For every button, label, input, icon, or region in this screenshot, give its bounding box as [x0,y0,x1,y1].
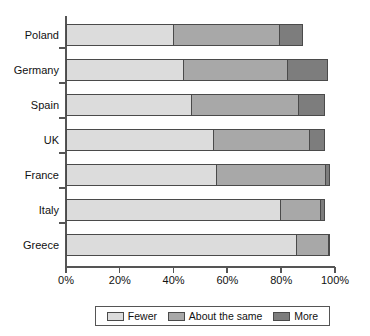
x-axis-tick-label-80: 80% [256,274,306,286]
legend-label-fewer: Fewer [128,310,157,322]
y-axis-label-france: France [0,164,59,186]
y-axis-minor-tick [59,47,66,49]
bar-segment-more-poland [279,24,303,46]
y-axis-label-greece: Greece [0,234,59,256]
bar-segment-about-the-same-germany [183,59,288,81]
y-axis-minor-tick [59,187,66,189]
bar-segment-about-the-same-poland [173,24,281,46]
bar-segment-more-spain [298,94,325,116]
plot-area [66,16,335,266]
x-axis-tick [334,267,336,273]
bar-stack [66,94,335,116]
bar-stack [66,24,335,46]
x-axis-tick-label-60: 60% [202,274,252,286]
x-axis-tick-label-20: 20% [95,274,145,286]
legend-entry-more: More [273,310,318,322]
bar-segment-fewer-france [66,164,217,186]
bar-stack [66,234,335,256]
legend-entry-fewer: Fewer [107,310,157,322]
bar-row-italy [66,199,335,221]
bar-row-germany [66,59,335,81]
y-axis-minor-tick [59,152,66,154]
x-axis-line [65,266,335,268]
bar-segment-fewer-poland [66,24,174,46]
bar-segment-fewer-italy [66,199,281,221]
bar-segment-more-germany [287,59,327,81]
bar-row-poland [66,24,335,46]
bar-segment-fewer-germany [66,59,184,81]
y-axis-label-germany: Germany [0,59,59,81]
chart-legend: Fewer About the same More [95,306,330,326]
legend-swatch-more-icon [273,312,290,321]
bar-segment-about-the-same-uk [213,129,310,151]
x-axis-tick-label-0: 0% [41,274,91,286]
x-axis-tick [280,267,282,273]
bar-row-greece [66,234,335,256]
legend-label-more: More [294,310,318,322]
y-axis-label-uk: UK [0,129,59,151]
legend-swatch-about-the-same-icon [168,312,185,321]
bar-segment-more-greece [328,234,331,256]
bar-segment-about-the-same-greece [296,234,328,256]
bar-row-france [66,164,335,186]
bar-segment-fewer-spain [66,94,192,116]
legend-swatch-fewer-icon [107,312,124,321]
y-axis-label-poland: Poland [0,24,59,46]
y-axis-label-spain: Spain [0,94,59,116]
x-axis-tick [65,267,67,273]
bar-segment-more-uk [309,129,325,151]
bar-row-uk [66,129,335,151]
x-axis-tick-label-40: 40% [149,274,199,286]
stacked-bar-chart: Poland Germany Spain UK France Italy Gre… [0,0,370,336]
bar-segment-about-the-same-italy [280,199,320,221]
bar-segment-fewer-greece [66,234,297,256]
bar-segment-about-the-same-spain [191,94,299,116]
bar-stack [66,164,335,186]
y-axis-minor-tick [59,82,66,84]
y-axis-minor-tick [59,222,66,224]
x-axis-tick [226,267,228,273]
y-axis-minor-tick [59,117,66,119]
bar-row-spain [66,94,335,116]
legend-entry-about-the-same: About the same [168,310,263,322]
x-axis-tick [173,267,175,273]
bar-stack [66,129,335,151]
y-axis-label-italy: Italy [0,199,59,221]
bar-segment-fewer-uk [66,129,214,151]
bar-stack [66,59,335,81]
x-axis-tick-label-100: 100% [310,274,360,286]
bar-segment-more-france [325,164,330,186]
bar-segment-about-the-same-france [216,164,326,186]
bar-segment-more-italy [320,199,325,221]
bar-stack [66,199,335,221]
legend-label-about-the-same: About the same [189,310,263,322]
x-axis-tick [119,267,121,273]
